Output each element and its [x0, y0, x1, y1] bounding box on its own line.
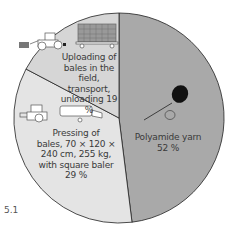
uploading-line: field, transport,: [58, 73, 120, 94]
pressing-line: 29 %: [36, 170, 116, 181]
uploading-line: bales in the: [58, 63, 120, 74]
pressing-line: 240 cm, 255 kg,: [36, 149, 116, 160]
pressing-line: with square baler: [36, 160, 116, 171]
uploading-line: Uploading of: [58, 52, 120, 63]
pressing-line: bales, 70 × 120 ×: [36, 139, 116, 150]
label-polyamide: Polyamide yarn 52 %: [128, 132, 208, 153]
uploading-line: unloading 19 %: [58, 94, 120, 115]
polyamide-line: Polyamide yarn: [128, 132, 208, 143]
figure-label: 5.1: [4, 205, 18, 215]
polyamide-line: 52 %: [128, 143, 208, 154]
slice-polyamide: [119, 13, 224, 222]
label-pressing: Pressing of bales, 70 × 120 × 240 cm, 25…: [36, 128, 116, 181]
pressing-line: Pressing of: [36, 128, 116, 139]
label-uploading: Uploading of bales in the field, transpo…: [58, 52, 120, 115]
